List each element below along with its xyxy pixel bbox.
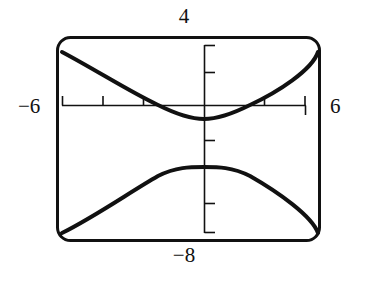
x-max-label: 6 bbox=[330, 96, 341, 117]
x-min-label: −6 bbox=[18, 96, 40, 117]
y-min-label: −8 bbox=[0, 245, 368, 266]
y-max-label: 4 bbox=[0, 6, 368, 27]
graph-figure: 4 −8 −6 6 bbox=[0, 0, 368, 283]
viewport-frame bbox=[58, 38, 320, 241]
curve-lower-branch bbox=[62, 167, 318, 233]
plot-canvas bbox=[0, 0, 368, 283]
curve-upper-branch bbox=[62, 52, 318, 119]
y-axis-ticks bbox=[205, 46, 216, 233]
